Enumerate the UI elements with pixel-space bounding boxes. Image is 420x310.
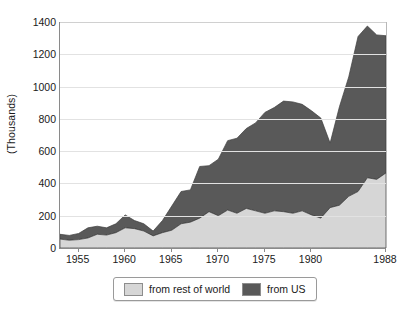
stacked-area-series <box>60 22 386 248</box>
x-tick-mark <box>124 249 125 252</box>
gridline <box>60 87 386 88</box>
y-tick-label: 400 <box>10 177 56 189</box>
x-tick-label: 1980 <box>299 253 322 265</box>
legend-swatch-from-us <box>242 283 261 296</box>
gridline <box>60 151 386 152</box>
x-tick-label: 1960 <box>113 253 136 265</box>
gridline <box>60 183 386 184</box>
y-tick-label: 200 <box>10 210 56 222</box>
y-tick-label: 1400 <box>10 16 56 28</box>
y-tick-label: 800 <box>10 113 56 125</box>
x-tick-mark <box>310 249 311 252</box>
plot-area <box>59 22 387 248</box>
x-tick-label: 1965 <box>159 253 182 265</box>
legend-swatch-rest-of-world <box>124 283 143 296</box>
legend-item-rest-of-world[interactable]: from rest of world <box>124 283 230 296</box>
x-axis-ticks: 1955196019651970197519801988 <box>0 249 420 269</box>
x-tick-mark <box>171 249 172 252</box>
gridline <box>60 216 386 217</box>
chart-legend: from rest of world from US <box>113 277 317 301</box>
legend-label-from-us: from US <box>267 283 306 295</box>
x-tick-mark <box>264 249 265 252</box>
chart-figure: (Thousands) 0200400600800100012001400 19… <box>0 0 420 310</box>
x-tick-label: 1955 <box>66 253 89 265</box>
x-tick-label: 1970 <box>206 253 229 265</box>
legend-item-from-us[interactable]: from US <box>242 283 306 296</box>
y-tick-label: 1200 <box>10 48 56 60</box>
plot-inner <box>60 22 386 248</box>
gridline <box>60 22 386 23</box>
x-tick-mark <box>217 249 218 252</box>
y-tick-label: 1000 <box>10 81 56 93</box>
x-tick-mark <box>78 249 79 252</box>
gridline <box>60 54 386 55</box>
legend-label-rest-of-world: from rest of world <box>149 283 230 295</box>
x-tick-label: 1988 <box>373 253 396 265</box>
x-tick-mark <box>385 249 386 252</box>
x-tick-label: 1975 <box>252 253 275 265</box>
gridline <box>60 119 386 120</box>
y-tick-label: 600 <box>10 145 56 157</box>
